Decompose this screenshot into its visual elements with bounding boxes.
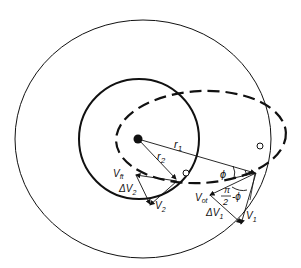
minus-phi-label: -ϕ — [232, 191, 241, 202]
dv2-label: ΔV2 — [118, 183, 136, 196]
v1-label: V1 — [246, 210, 257, 223]
r1-label: r1 — [174, 138, 182, 153]
vot-label: Vot — [195, 192, 209, 204]
pi-label: π — [224, 185, 231, 195]
vft-vector — [136, 175, 177, 181]
r2-label: r2 — [157, 150, 166, 165]
r1-vector — [138, 139, 255, 173]
tangent-line — [225, 173, 256, 180]
radial-extension — [250, 173, 255, 200]
marker-inner — [183, 170, 189, 176]
outer-orbit — [15, 20, 271, 258]
phi-label: ϕ — [220, 168, 226, 180]
two-label: 2 — [222, 197, 228, 207]
dv1-label: ΔV1 — [205, 207, 223, 220]
orbital-transfer-diagram: r1 r2 ϕ π 2 -ϕ Vft ΔV2 V2 Vot ΔV1 V1 — [0, 0, 301, 268]
marker-outer — [257, 143, 263, 149]
v2-label: V2 — [155, 200, 166, 213]
vft-label: Vft — [113, 168, 125, 180]
phi-arc — [233, 166, 235, 178]
